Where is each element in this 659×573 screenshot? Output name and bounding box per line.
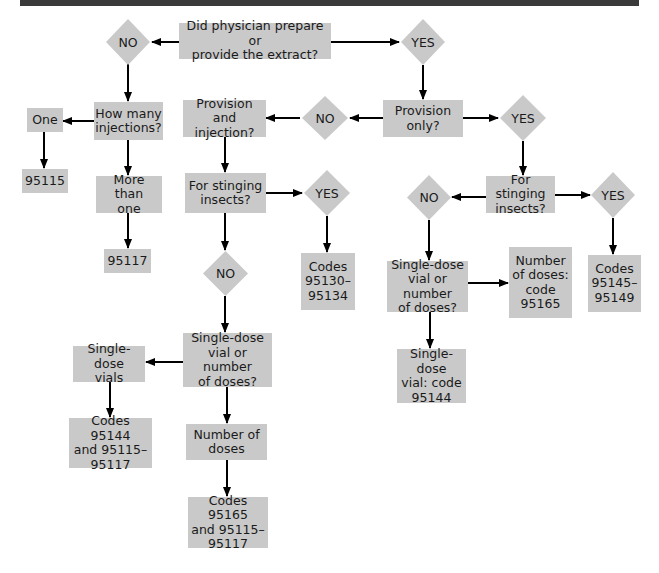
- decision-yes-top: YES: [401, 19, 445, 65]
- node-codes-95165-95115-95117: Codes 95165 and 95115– 95117: [188, 497, 268, 548]
- decision-yes-provision: YES: [500, 95, 546, 141]
- node-stinging-insects-right: For stinging insects?: [486, 176, 555, 213]
- node-code-95115: 95115: [22, 169, 68, 193]
- node-code-95117: 95117: [104, 249, 151, 273]
- node-single-dose-or-doses-left: Single-dose vial or number of doses?: [183, 333, 272, 387]
- decision-no-provision: NO: [302, 96, 348, 140]
- node-stinging-insects-left: For stinging insects?: [185, 173, 266, 213]
- decision-label: YES: [411, 35, 434, 50]
- node-single-dose-vial-95144: Single-dose vial: code 95144: [397, 349, 466, 403]
- node-number-of-doses: Number of doses: [186, 424, 267, 460]
- node-single-dose-or-doses-right: Single-dose vial or number of doses?: [387, 261, 468, 312]
- decision-label: NO: [315, 111, 334, 126]
- node-did-physician-prepare: Did physician prepare or provide the ext…: [179, 23, 331, 59]
- decision-no-top: NO: [106, 19, 150, 65]
- node-how-many-injections: How many injections?: [94, 102, 163, 140]
- decision-label: NO: [216, 266, 235, 281]
- decision-label: YES: [511, 111, 534, 126]
- node-provision-only: Provision only?: [383, 100, 463, 137]
- node-number-of-doses-95165: Number of doses: code 95165: [509, 247, 572, 318]
- decision-yes-stinging-left: YES: [304, 170, 350, 216]
- node-more-than-one: More than one: [96, 176, 162, 213]
- decision-label: YES: [315, 186, 338, 201]
- node-codes-95145-95149: Codes 95145– 95149: [588, 255, 641, 312]
- decision-no-stinging-left: NO: [203, 251, 248, 296]
- node-codes-95130-95134: Codes 95130– 95134: [301, 253, 355, 310]
- decision-label: YES: [601, 188, 624, 203]
- decision-yes-stinging-right: YES: [591, 172, 635, 218]
- node-codes-95144-95115-95117: Codes 95144 and 95115– 95117: [69, 418, 152, 468]
- node-single-dose-vials: Single-dose vials: [73, 346, 145, 382]
- node-one: One: [27, 108, 63, 132]
- node-provision-and-injection: Provision and injection?: [183, 100, 266, 137]
- decision-no-stinging-right: NO: [407, 175, 451, 220]
- decision-label: NO: [419, 190, 438, 205]
- decision-label: NO: [118, 35, 137, 50]
